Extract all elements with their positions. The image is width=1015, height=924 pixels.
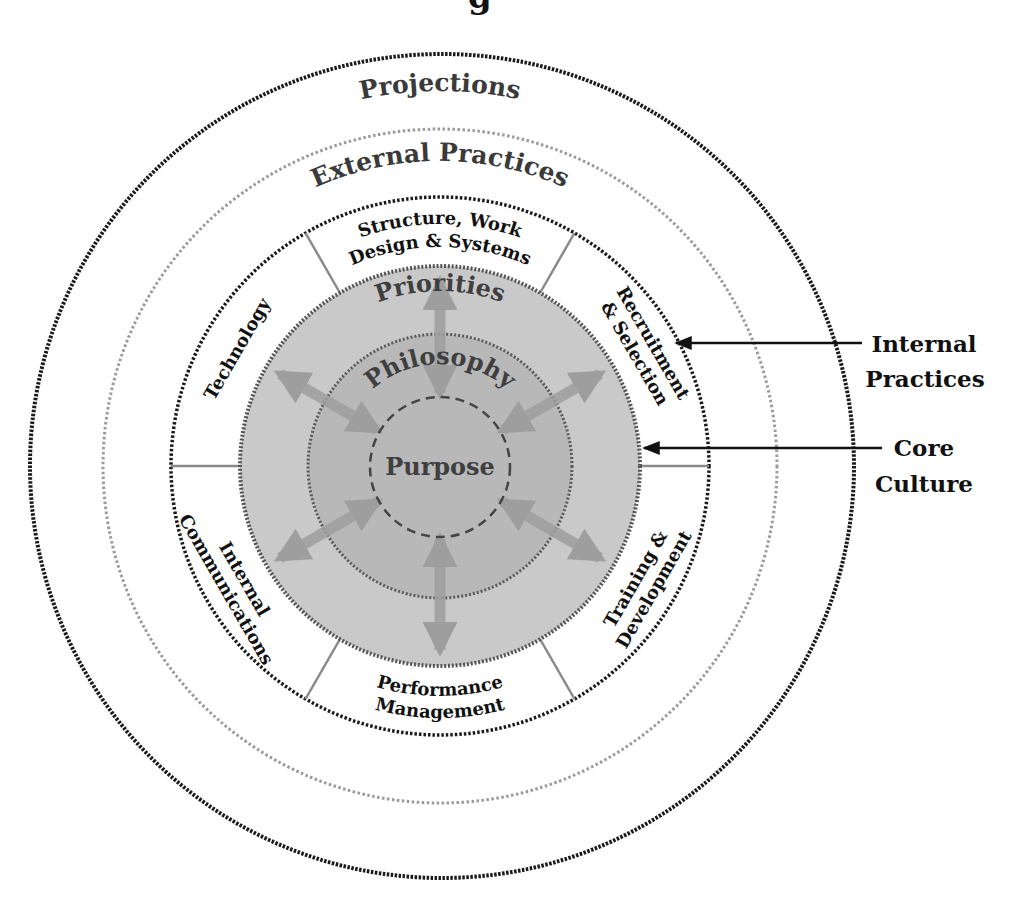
projections-label: Projections — [357, 68, 523, 105]
external-practices-label: External Practices — [306, 138, 573, 193]
purpose-label: Purpose — [385, 452, 495, 481]
callout-core-culture-line2: Culture — [875, 470, 973, 497]
callout-internal-practices-line1: Internal — [871, 330, 976, 357]
callout-core-culture-line1: Core — [894, 434, 954, 461]
callout-internal-practices-line2: Practices — [865, 365, 984, 392]
culture-diagram: g Projections External Practices Structu… — [0, 0, 1015, 924]
cropped-title-fragment: g — [468, 0, 492, 16]
